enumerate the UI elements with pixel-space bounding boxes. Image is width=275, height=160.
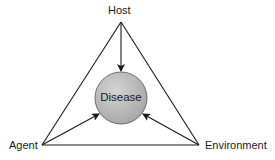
arrow-agent-disease: [42, 114, 99, 145]
environment-label: Environment: [205, 139, 267, 151]
arrow-environment-disease: [143, 114, 199, 145]
host-label: Host: [108, 4, 131, 16]
agent-label: Agent: [9, 139, 38, 151]
disease-label: Disease: [95, 91, 147, 103]
triangle-diagram: [0, 0, 275, 160]
